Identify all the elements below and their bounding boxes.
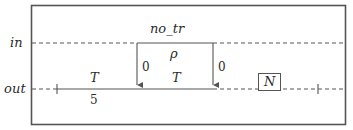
transition-label-left: 0	[142, 61, 150, 73]
lane-label-in: in	[10, 36, 23, 49]
out-segment-1-lower: 5	[90, 94, 98, 106]
counter-box-n: N	[258, 73, 281, 91]
out-segment-2-upper: T	[172, 71, 181, 84]
transition-label-right: 0	[218, 61, 226, 73]
signal-name-no-tr: no_tr	[150, 22, 184, 35]
signal-value-rho: ρ	[170, 47, 178, 60]
lane-label-out: out	[4, 82, 26, 95]
diagram-graphics	[0, 0, 353, 130]
timing-diagram: in out no_tr ρ 0 0 T 5 T N	[0, 0, 353, 130]
diagram-frame	[32, 6, 346, 125]
out-segment-1-upper: T	[90, 71, 99, 84]
